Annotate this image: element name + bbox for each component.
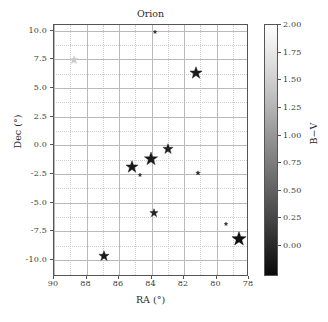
x-tick-label: 78 [233, 279, 263, 288]
grid-line-vertical [184, 25, 185, 275]
colorbar-tick-label: 0.75 [283, 158, 302, 167]
star-marker-alnilam [144, 152, 158, 166]
star-marker-meissa [153, 30, 157, 34]
grid-line-horizontal [54, 59, 247, 60]
y-tick-label: -2.5 [0, 168, 47, 177]
star-marker-betelgeuse [69, 56, 78, 65]
plot-area [54, 25, 247, 275]
grid-line-horizontal [54, 117, 247, 118]
grid-line-minor-horizontal [54, 131, 247, 132]
colorbar-tick-mark [278, 135, 281, 136]
colorbar-tick-mark [278, 190, 281, 191]
grid-line-minor-vertical [200, 25, 201, 275]
y-tick-label: 5.0 [0, 83, 47, 92]
colorbar-tick-label: 1.50 [283, 75, 302, 84]
y-tick-mark [50, 116, 53, 117]
grid-line-minor-vertical [135, 25, 136, 275]
grid-line-vertical [119, 25, 120, 275]
grid-line-horizontal [54, 88, 247, 89]
grid-line-horizontal [54, 231, 247, 232]
colorbar-tick-label: 0.50 [283, 185, 302, 194]
grid-line-minor-horizontal [54, 45, 247, 46]
star-marker-saiph [98, 251, 109, 262]
colorbar-tick-mark [278, 79, 281, 80]
colorbar-tick-label: 2.00 [283, 20, 302, 29]
grid-line-horizontal [54, 260, 247, 261]
grid-line-horizontal [54, 174, 247, 175]
y-tick-mark [50, 259, 53, 260]
colorbar-label: B−V [308, 79, 319, 189]
grid-line-minor-vertical [103, 25, 104, 275]
y-tick-mark [50, 58, 53, 59]
y-tick-mark [50, 230, 53, 231]
grid-line-vertical [152, 25, 153, 275]
figure: Orion Dec (°) RA (°) 10.07.55.02.50.0-2.… [0, 0, 328, 322]
colorbar-tick-mark [278, 24, 281, 25]
x-tick-label: 86 [103, 279, 133, 288]
grid-line-minor-horizontal [54, 246, 247, 247]
grid-line-horizontal [54, 203, 247, 204]
colorbar-tick-mark [278, 52, 281, 53]
star-marker-eta-ori [196, 170, 201, 175]
grid-line-horizontal [54, 145, 247, 146]
y-tick-label: 2.5 [0, 111, 47, 120]
y-tick-label: 7.5 [0, 54, 47, 63]
colorbar-gradient [264, 24, 278, 276]
grid-line-minor-horizontal [54, 188, 247, 189]
colorbar-tick-label: 1.75 [283, 47, 302, 56]
colorbar-tick-label: 0.00 [283, 241, 302, 250]
x-tick-mark [248, 276, 249, 279]
grid-line-vertical [54, 25, 55, 275]
grid-line-vertical [217, 25, 218, 275]
y-tick-label: 0.0 [0, 140, 47, 149]
colorbar-tick-label: 1.25 [283, 102, 302, 111]
star-marker-alnitak [126, 161, 139, 174]
grid-line-minor-horizontal [54, 102, 247, 103]
star-marker-tau-ori [224, 222, 228, 226]
x-tick-mark [183, 276, 184, 279]
grid-line-vertical [87, 25, 88, 275]
colorbar-tick-mark [278, 217, 281, 218]
colorbar-tick-label: 0.25 [283, 213, 302, 222]
x-tick-label: 88 [71, 279, 101, 288]
y-tick-label: -10.0 [0, 254, 47, 263]
star-marker-mintaka [162, 143, 173, 154]
y-tick-mark [50, 173, 53, 174]
chart-title: Orion [53, 8, 248, 19]
colorbar-tick-label: 1.00 [283, 130, 302, 139]
colorbar-tick-mark [278, 162, 281, 163]
star-marker-iota-ori [149, 208, 158, 217]
x-tick-label: 84 [136, 279, 166, 288]
grid-line-minor-horizontal [54, 74, 247, 75]
x-tick-mark [86, 276, 87, 279]
x-tick-label: 90 [38, 279, 68, 288]
x-axis-label: RA (°) [53, 294, 248, 305]
y-tick-label: -7.5 [0, 226, 47, 235]
colorbar-tick-mark [278, 245, 281, 246]
y-tick-label: -5.0 [0, 197, 47, 206]
x-tick-label: 80 [201, 279, 231, 288]
x-tick-label: 82 [168, 279, 198, 288]
x-tick-mark [53, 276, 54, 279]
star-marker-rigel [231, 232, 246, 247]
y-tick-mark [50, 144, 53, 145]
colorbar-tick-mark [278, 107, 281, 108]
star-marker-bellatrix [189, 66, 202, 79]
y-tick-mark [50, 87, 53, 88]
y-tick-mark [50, 30, 53, 31]
y-tick-mark [50, 202, 53, 203]
plot-axes [53, 24, 248, 276]
x-tick-mark [118, 276, 119, 279]
x-tick-mark [151, 276, 152, 279]
x-tick-mark [216, 276, 217, 279]
grid-line-horizontal [54, 31, 247, 32]
y-tick-label: 10.0 [0, 25, 47, 34]
star-marker-sigma-ori [138, 173, 142, 177]
